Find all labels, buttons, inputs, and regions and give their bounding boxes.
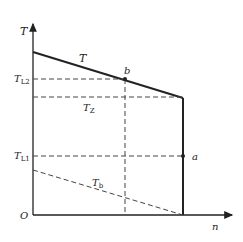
t-l2-label: TL2 [14,73,30,86]
point-b [123,77,127,81]
point-a-label: a [192,151,198,162]
t-b-label: Tb [92,177,104,190]
point-b-label: b [124,65,130,76]
y-axis-label: T [20,25,29,38]
t-n-diagram: T n O T TL2 TZ TL1 Tb b a [0,0,243,242]
origin-label: O [20,210,28,221]
point-a [181,154,185,158]
t-l1-label: TL1 [14,150,30,163]
x-axis-label: n [212,221,218,232]
t-z-label: TZ [83,102,95,115]
t-b-curve [33,170,183,215]
t-curve [33,52,183,98]
t-curve-label: T [79,52,88,65]
